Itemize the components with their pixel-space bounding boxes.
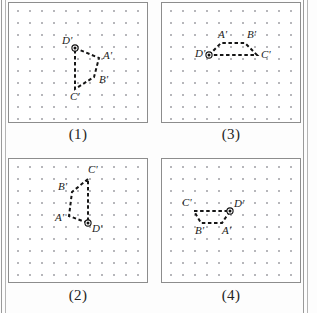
panel-4-dashed-quadrilateral <box>194 211 230 223</box>
panel-4-vertex-label-4: B' <box>195 224 205 236</box>
panel-4-plot-area: C'D'A'B' <box>161 158 301 283</box>
panel-4-vertex-label-3: A' <box>221 224 232 236</box>
panel-4: C'D'A'B'(4) <box>0 0 317 313</box>
panel-4-caption: (4) <box>161 288 301 303</box>
panel-4-vertex-label-1: C' <box>182 196 192 208</box>
panel-4-pivot-marker-dot <box>229 210 232 213</box>
panel-grid: D'A'B'C'(1)D'A'B'C'(3)C'B'A'D'(2)C'D'A'B… <box>0 0 317 313</box>
panel-4-vertex-label-2: D' <box>233 197 245 209</box>
figure-root: D'A'B'C'(1)D'A'B'C'(3)C'B'A'D'(2)C'D'A'B… <box>0 0 317 313</box>
panel-4-shape: C'D'A'B' <box>162 159 300 282</box>
